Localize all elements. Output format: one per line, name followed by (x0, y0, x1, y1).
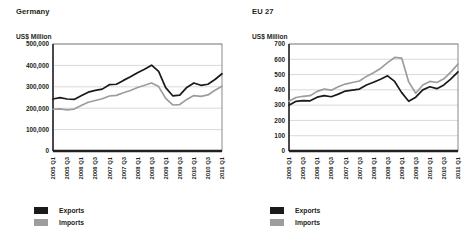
series-line-exports (289, 72, 458, 105)
x-axis-tick-label: 2010 Q1 (427, 156, 433, 179)
y-axis-tick-label: 100 (274, 132, 285, 139)
x-axis-tick-label: 2006 Q1 (78, 156, 84, 179)
y-axis-tick-label: 500 (274, 71, 285, 78)
plot-area-germany: 0100,000200,000300,000400,000500,0002005… (0, 0, 236, 237)
line-chart-germany: 0100,000200,000300,000400,000500,0002005… (0, 0, 236, 200)
chart-panel-germany: Germany US$ Million 0100,000200,000300,0… (0, 0, 236, 237)
x-axis-tick-label: 2008 Q3 (149, 156, 155, 179)
x-axis-tick-label: 2010 Q3 (205, 156, 211, 179)
y-axis-tick-label: 100,000 (26, 126, 50, 134)
x-axis-tick-label: 2007 Q3 (121, 156, 127, 179)
y-axis-tick-label: 200 (274, 117, 285, 124)
y-axis-tick-label: 0 (45, 147, 49, 154)
x-axis-tick-label: 2007 Q1 (343, 156, 349, 179)
y-axis-tick-label: 600 (274, 56, 285, 63)
y-axis-tick-label: 700 (274, 40, 285, 47)
x-axis-tick-label: 2007 Q3 (357, 156, 363, 179)
legend-swatch-imports (34, 219, 48, 226)
legend-label-exports: Exports (59, 206, 84, 215)
x-axis-tick-label: 2005 Q1 (286, 156, 292, 179)
y-axis-tick-label: 200,000 (26, 105, 50, 113)
series-line-exports (53, 65, 222, 99)
x-axis-tick-label: 2010 Q1 (191, 156, 197, 179)
x-axis-tick-label: 2009 Q1 (399, 156, 405, 179)
legend-swatch-exports (34, 207, 48, 214)
legend-label-imports: Imports (59, 218, 84, 227)
y-axis-tick-label: 400,000 (26, 62, 50, 70)
x-axis-tick-label: 2006 Q3 (92, 156, 98, 179)
x-axis-tick-label: 2006 Q1 (314, 156, 320, 179)
x-axis-tick-label: 2005 Q3 (300, 156, 306, 179)
legend-swatch-exports (270, 207, 284, 214)
legend-label-exports: Exports (295, 206, 320, 215)
x-axis-tick-label: 2008 Q3 (385, 156, 391, 179)
x-axis-tick-label: 2005 Q3 (64, 156, 70, 179)
y-axis-tick-label: 300,000 (26, 83, 50, 91)
x-axis-tick-label: 2011 Q1 (455, 156, 461, 179)
y-axis-tick-label: 0 (281, 147, 285, 154)
x-axis-tick-label: 2011 Q1 (219, 156, 225, 179)
legend-swatch-imports (270, 219, 284, 226)
x-axis-tick-label: 2007 Q1 (107, 156, 113, 179)
x-axis-tick-label: 2009 Q1 (163, 156, 169, 179)
x-axis-tick-label: 2009 Q3 (177, 156, 183, 179)
x-axis-tick-label: 2009 Q3 (413, 156, 419, 179)
series-line-imports (289, 57, 458, 101)
y-axis-tick-label: 500,000 (26, 40, 50, 48)
line-chart-eu27: 01002003004005006007002005 Q12005 Q32006… (236, 0, 472, 200)
x-axis-tick-label: 2010 Q3 (441, 156, 447, 179)
legend-label-imports: Imports (295, 218, 320, 227)
x-axis-tick-label: 2005 Q1 (50, 156, 56, 179)
x-axis-tick-label: 2008 Q1 (371, 156, 377, 179)
chart-panel-eu27: EU 27 US$ Million 0100200300400500600700… (236, 0, 472, 237)
legend-item-exports: Exports (270, 206, 320, 215)
trade-charts-figure: Germany US$ Million 0100,000200,000300,0… (0, 0, 472, 237)
y-axis-tick-label: 400 (274, 86, 285, 93)
legend-eu27: Exports Imports (270, 206, 320, 227)
plot-area-eu27: 01002003004005006007002005 Q12005 Q32006… (236, 0, 472, 237)
x-axis-tick-label: 2008 Q1 (135, 156, 141, 179)
legend-item-exports: Exports (34, 206, 84, 215)
x-axis-tick-label: 2006 Q3 (328, 156, 334, 179)
legend-germany: Exports Imports (34, 206, 84, 227)
legend-item-imports: Imports (34, 218, 84, 227)
y-axis-tick-label: 300 (274, 101, 285, 108)
legend-item-imports: Imports (270, 218, 320, 227)
